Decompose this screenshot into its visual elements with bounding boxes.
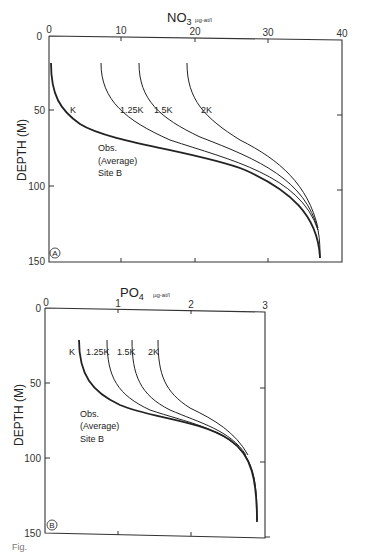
- panel-a-ytick-50: 50: [34, 105, 46, 116]
- panel-a-note-obs: Obs.: [98, 143, 117, 153]
- panel-a-curve-1-5k: [139, 63, 318, 230]
- panel-a-xtick-10: 10: [115, 25, 127, 36]
- panel-b-y-label: DEPTH (M): [12, 384, 26, 446]
- panel-a-frame: [49, 36, 342, 262]
- panel-b-note-obs: Obs.: [80, 409, 99, 419]
- panel-a: NO3 µg-at/l 0 10 20 30 40 0 50 100: [15, 10, 348, 267]
- panel-a-y-label: DEPTH (M): [15, 119, 29, 181]
- panel-b-frame: [45, 308, 265, 538]
- panel-a-label-2k: 2K: [201, 105, 212, 115]
- panel-a-ytick-150: 150: [28, 256, 45, 267]
- panel-a-note-average: (Average): [98, 156, 137, 166]
- panel-a-xtick-0: 0: [46, 24, 52, 35]
- panel-b: PO4 µg-at/l 0 1 2 3 0 50 100 150 DEPTH (…: [12, 285, 270, 539]
- panel-b-note-site: Site B: [80, 434, 104, 444]
- panel-b-label-1-25k: 1.25K: [86, 347, 110, 357]
- panel-b-curve-k: [79, 340, 257, 522]
- panel-b-note-average: (Average): [80, 421, 119, 431]
- panel-a-axis-unit: µg-at/l: [195, 17, 212, 23]
- panel-a-xtick-30: 30: [262, 27, 274, 38]
- panel-a-x-ticks: 0 10 20 30 40: [46, 24, 348, 262]
- panel-b-curves: [79, 340, 257, 522]
- panel-a-label-k: K: [70, 105, 76, 115]
- panel-a-xtick-20: 20: [189, 26, 201, 37]
- panel-b-curve-2k: [158, 340, 248, 455]
- panel-b-xtick-3: 3: [262, 300, 268, 311]
- panel-a-curve-k: [51, 63, 320, 258]
- panel-b-label-1-5k: 1.5K: [117, 347, 136, 357]
- panel-b-axis-unit: µg-at/l: [153, 292, 170, 298]
- panel-b-curve-1-5k: [132, 340, 246, 455]
- panel-b-y-ticks: 0 50 100 150: [24, 303, 270, 539]
- panel-b-ytick-100: 100: [24, 453, 41, 464]
- panel-b-badge: B: [49, 521, 54, 530]
- panel-a-label-1-25k: 1.25K: [120, 105, 144, 115]
- panel-b-ytick-150: 150: [24, 528, 41, 539]
- panel-a-badge: A: [52, 249, 58, 258]
- panel-b-xtick-2: 2: [188, 299, 194, 310]
- panel-a-label-1-5k: 1.5K: [154, 105, 173, 115]
- panel-a-xtick-40: 40: [336, 28, 348, 39]
- panel-b-label-2k: 2K: [148, 347, 159, 357]
- panel-b-ytick-50: 50: [30, 378, 42, 389]
- panel-a-curves: [51, 63, 320, 258]
- panel-b-x-ticks: 0 1 2 3: [43, 297, 268, 536]
- panel-b-label-k: K: [69, 347, 75, 357]
- panel-a-axis-title: NO3: [167, 10, 192, 27]
- panel-b-ytick-0: 0: [35, 303, 41, 314]
- panel-a-y-ticks: 0 50 100 150: [28, 31, 342, 267]
- panel-a-curve-2k: [187, 63, 318, 228]
- figure-canvas: NO3 µg-at/l 0 10 20 30 40 0 50 100: [0, 0, 366, 554]
- panel-b-xtick-0: 0: [43, 297, 49, 308]
- panel-b-curve-1-25k: [107, 340, 257, 520]
- panel-a-note-site: Site B: [98, 168, 122, 178]
- panel-a-ytick-0: 0: [36, 31, 42, 42]
- panel-b-xtick-1: 1: [115, 298, 121, 309]
- panel-a-ytick-100: 100: [28, 181, 45, 192]
- panel-b-axis-title: PO4: [120, 285, 144, 302]
- figure-caption: Fig.: [12, 542, 27, 552]
